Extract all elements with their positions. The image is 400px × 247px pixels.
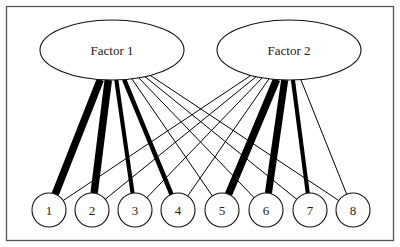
indicator-node-7: 7: [293, 193, 327, 227]
indicator-label: 4: [175, 203, 182, 218]
factor-node-1: Factor 1: [40, 20, 184, 80]
factor-node-2: Factor 2: [217, 20, 361, 80]
indicator-label: 3: [132, 203, 139, 218]
indicator-node-4: 4: [161, 193, 195, 227]
factor-diagram: Factor 1Factor 2 12345678: [0, 0, 400, 247]
indicator-label: 2: [89, 203, 96, 218]
factor-label: Factor 1: [91, 43, 134, 58]
indicator-label: 8: [350, 203, 357, 218]
indicator-label: 6: [263, 203, 270, 218]
indicator-label: 7: [307, 203, 314, 218]
indicator-node-8: 8: [336, 193, 370, 227]
indicator-node-6: 6: [249, 193, 283, 227]
indicator-label: 1: [46, 203, 53, 218]
indicator-node-1: 1: [32, 193, 66, 227]
factor-label: Factor 2: [268, 43, 311, 58]
indicator-node-3: 3: [118, 193, 152, 227]
indicator-label: 5: [219, 203, 226, 218]
indicator-node-2: 2: [75, 193, 109, 227]
indicator-node-5: 5: [205, 193, 239, 227]
